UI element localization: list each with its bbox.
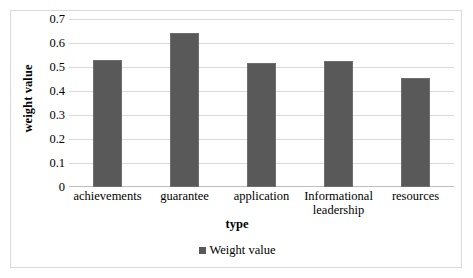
y-axis-tick-label: 0 bbox=[37, 181, 65, 194]
chart-frame: weight value 0.7 0.6 0.5 0.4 0.3 0.2 0.1… bbox=[10, 10, 462, 268]
y-axis-tick-label: 0.6 bbox=[37, 37, 65, 50]
bar-slot bbox=[146, 19, 223, 187]
y-axis-tick-label: 0.7 bbox=[37, 13, 65, 26]
x-axis-category-labels: achievements guarantee application Infor… bbox=[69, 189, 454, 217]
bar-application[interactable] bbox=[247, 63, 276, 187]
bar-slot bbox=[223, 19, 300, 187]
x-axis-category-label: guarantee bbox=[146, 189, 223, 203]
bar-slot bbox=[377, 19, 454, 187]
y-axis-tick-labels: 0.7 0.6 0.5 0.4 0.3 0.2 0.1 0 bbox=[37, 19, 65, 187]
bar-slot bbox=[69, 19, 146, 187]
legend-entry-label: Weight value bbox=[210, 243, 276, 258]
y-axis-title: weight value bbox=[17, 11, 39, 186]
y-axis-tick-label: 0.1 bbox=[37, 157, 65, 170]
plot-area bbox=[69, 19, 454, 187]
bar-informational-leadership[interactable] bbox=[324, 61, 353, 187]
x-axis-category-label: application bbox=[223, 189, 300, 203]
bar-guarantee[interactable] bbox=[170, 33, 199, 187]
x-axis-title: type bbox=[11, 217, 463, 232]
bars-layer bbox=[69, 19, 454, 187]
y-axis-tick-label: 0.3 bbox=[37, 109, 65, 122]
bar-achievements[interactable] bbox=[93, 60, 122, 187]
bar-slot bbox=[300, 19, 377, 187]
y-axis-tick-label: 0.4 bbox=[37, 85, 65, 98]
x-axis-category-label: achievements bbox=[69, 189, 146, 203]
x-axis-category-label: Informational leadership bbox=[300, 189, 377, 217]
bar-resources[interactable] bbox=[401, 78, 430, 187]
y-axis-tick-label: 0.2 bbox=[37, 133, 65, 146]
legend-square-marker-icon bbox=[199, 247, 206, 254]
chart-legend: Weight value bbox=[11, 243, 463, 258]
y-axis-title-label: weight value bbox=[21, 64, 36, 132]
y-axis-tick-label: 0.5 bbox=[37, 61, 65, 74]
x-axis-category-label: resources bbox=[377, 189, 454, 203]
